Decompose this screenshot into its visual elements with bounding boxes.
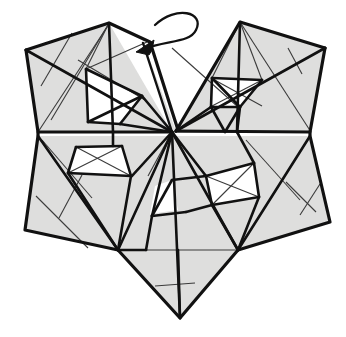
crease-ur-pocket-left [211, 78, 212, 107]
fold-arrow [136, 13, 198, 55]
origami-diagram [0, 0, 346, 337]
crease-ll-pocket-top [76, 146, 122, 147]
crease-mid-spine-right [176, 131, 310, 132]
origami-figure-svg [0, 0, 346, 337]
